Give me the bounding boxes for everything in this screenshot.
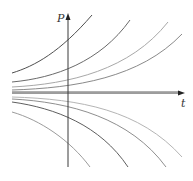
decay-curve-4 xyxy=(12,112,90,167)
solution-curves-diagram: P t xyxy=(0,0,193,181)
decay-curve-2 xyxy=(12,99,166,167)
p-axis-arrow-icon xyxy=(66,13,71,20)
growth-curve-1 xyxy=(12,15,92,73)
p-axis-label: P xyxy=(56,12,65,25)
t-axis-label: t xyxy=(181,97,186,110)
growth-curve-2 xyxy=(12,20,130,82)
t-axis-arrow-icon xyxy=(178,91,185,96)
decay-curve-1 xyxy=(12,97,182,157)
growth-curve-3 xyxy=(12,22,168,87)
